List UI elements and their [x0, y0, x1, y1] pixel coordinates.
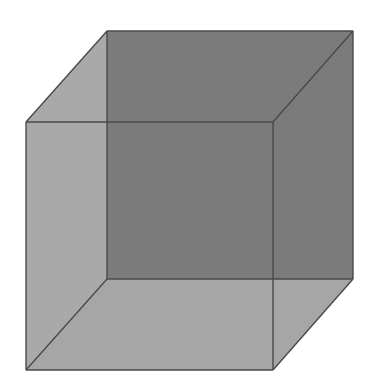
cube-diagram [0, 0, 378, 385]
